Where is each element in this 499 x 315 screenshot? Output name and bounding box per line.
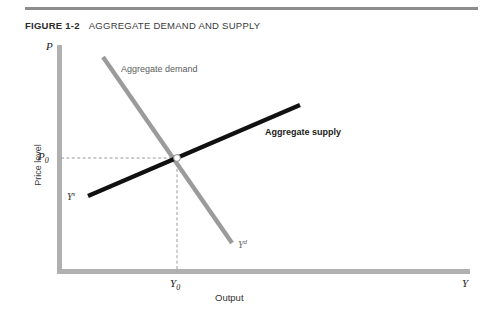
aggregate-supply-label: Aggregate supply xyxy=(265,127,341,137)
y-axis-title: Price level xyxy=(33,125,43,205)
aggregate-demand-symbol-label: Yd xyxy=(238,238,247,250)
aggregate-supply-curve xyxy=(88,105,300,196)
aggregate-demand-label: Aggregate demand xyxy=(121,64,198,74)
y-axis-symbol-label: P xyxy=(46,40,53,52)
aggregate-demand-curve xyxy=(103,57,232,243)
plot-area xyxy=(0,0,499,315)
supply-symbol-superscript: s xyxy=(73,190,76,198)
demand-symbol-superscript: d xyxy=(244,238,248,246)
equilibrium-price-subscript: 0 xyxy=(45,156,49,165)
equilibrium-output-label: Y0 xyxy=(170,277,180,292)
x-axis-title: Output xyxy=(215,292,244,303)
x-axis-symbol-label: Y xyxy=(462,277,468,289)
aggregate-supply-symbol-label: Ys xyxy=(67,190,75,202)
equilibrium-point-marker xyxy=(174,155,181,162)
figure-container: FIGURE 1-2AGGREGATE DEMAND AND SUPPLY P … xyxy=(0,0,499,315)
equilibrium-output-subscript: 0 xyxy=(176,283,180,292)
